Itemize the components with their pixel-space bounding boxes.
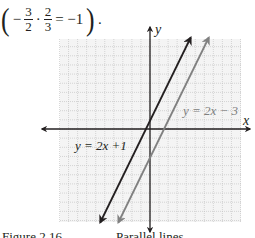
figure-caption: Parallel lines	[116, 229, 184, 238]
y-axis-label: y	[153, 22, 162, 37]
line2-label: y = 2x − 3	[181, 103, 239, 118]
line1-label: y = 2x +1	[73, 138, 127, 153]
figure-number: Figure 2.16	[2, 229, 62, 238]
x-axis-label: x	[242, 113, 250, 128]
parallel-lines-graph: x y y = 2x +1 y = 2x − 3	[0, 0, 255, 238]
